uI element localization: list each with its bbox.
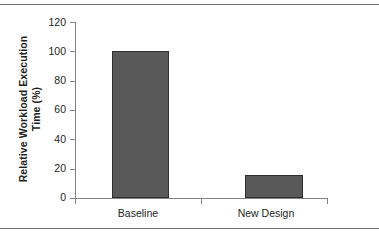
y-tick-label-80: 80 — [54, 75, 66, 86]
bar-baseline[interactable] — [112, 51, 169, 198]
y-tick-label-60: 60 — [54, 104, 66, 115]
x-tick-mark-start — [75, 199, 76, 204]
y-tick-label-40: 40 — [54, 134, 66, 145]
x-tick-mark-middle — [201, 199, 202, 204]
x-tick-mark-end — [327, 199, 328, 204]
bar-chart-figure: Relative Workload Execution Time (%) 120… — [0, 0, 379, 239]
figure-bottom-rule — [0, 228, 379, 229]
y-tick-label-100: 100 — [48, 46, 66, 57]
y-axis-title: Relative Workload Execution Time (%) — [13, 17, 47, 202]
y-axis-title-line-1: Relative Workload Execution — [17, 36, 30, 183]
figure-top-rule — [0, 4, 379, 5]
x-tick-label-baseline: Baseline — [78, 207, 198, 220]
y-tick-label-20: 20 — [54, 163, 66, 174]
y-axis-title-line-2: Time (%) — [30, 87, 43, 131]
x-tick-label-new-design: New Design — [206, 207, 326, 220]
y-tick-label-0: 0 — [60, 192, 66, 203]
bar-new-design[interactable] — [245, 175, 303, 199]
plot-area — [75, 22, 327, 198]
y-tick-label-120: 120 — [48, 17, 66, 28]
